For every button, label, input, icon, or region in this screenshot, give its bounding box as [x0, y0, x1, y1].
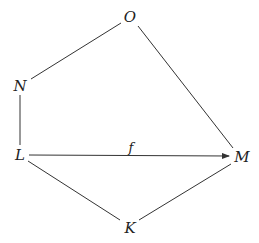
node-m: M [234, 150, 249, 165]
edge-o-m [138, 26, 233, 148]
diagram-canvas [0, 0, 259, 243]
edge-k-m [139, 164, 231, 220]
edge-l-m-arrow [29, 155, 229, 156]
edge-o-n [31, 23, 121, 79]
node-k: K [124, 221, 135, 236]
node-o: O [124, 10, 136, 25]
edge-label-f: f [129, 141, 134, 154]
node-n: N [13, 79, 26, 94]
node-l: L [15, 148, 25, 163]
edge-l-k [28, 161, 120, 220]
